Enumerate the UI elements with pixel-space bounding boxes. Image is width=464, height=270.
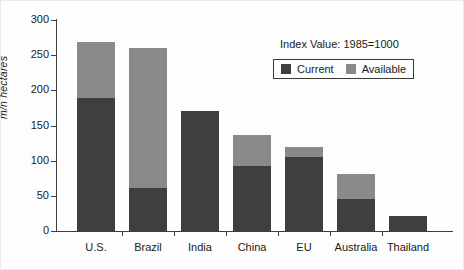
- bar-segment-current: [129, 188, 167, 231]
- y-axis-tick-label: 100: [15, 155, 49, 166]
- y-axis-tick-label: 300: [15, 14, 49, 25]
- bar-segment-available: [129, 48, 167, 188]
- bar-eu: [285, 147, 323, 231]
- bar-u-s: [77, 42, 115, 231]
- legend-title: Index Value: 1985=1000: [280, 38, 399, 50]
- y-axis-tick-label: 200: [15, 84, 49, 95]
- y-axis-tick-label: 0: [15, 225, 49, 236]
- legend: CurrentAvailable: [273, 59, 414, 79]
- y-axis-tick-label: 50: [15, 190, 49, 201]
- x-axis-tick: [330, 231, 331, 236]
- y-axis-tick-labels: 050100150200250300: [9, 1, 49, 270]
- plot-area: [57, 20, 452, 231]
- legend-swatch-icon: [346, 64, 356, 74]
- legend-entry-current: Current: [281, 63, 334, 75]
- y-axis-tick-label: 250: [15, 49, 49, 60]
- legend-swatch-icon: [281, 64, 291, 74]
- bar-segment-current: [181, 111, 219, 231]
- bar-australia: [337, 174, 375, 231]
- x-axis-tick: [382, 231, 383, 236]
- legend-label: Current: [297, 63, 334, 75]
- bar-segment-current: [233, 166, 271, 231]
- bar-brazil: [129, 48, 167, 231]
- x-axis-tick: [278, 231, 279, 236]
- bar-segment-available: [77, 42, 115, 98]
- x-axis-label: India: [174, 241, 226, 253]
- x-axis-label: EU: [278, 241, 330, 253]
- legend-label: Available: [362, 63, 406, 75]
- bar-segment-current: [77, 98, 115, 231]
- bar-segment-available: [233, 135, 271, 165]
- y-axis-tick-label: 150: [15, 120, 49, 131]
- x-axis-tick: [174, 231, 175, 236]
- bar-chart: m/n hectares 050100150200250300 U.S.Braz…: [0, 0, 464, 270]
- bar-thailand: [389, 216, 427, 231]
- x-axis-tick: [226, 231, 227, 236]
- x-axis-label: U.S.: [70, 241, 122, 253]
- bar-segment-available: [337, 174, 375, 199]
- x-axis-label: China: [226, 241, 278, 253]
- bar-india: [181, 111, 219, 231]
- y-axis-title: m/n hectares: [0, 56, 9, 119]
- bar-segment-current: [337, 199, 375, 231]
- x-axis-label: Thailand: [382, 241, 434, 253]
- bar-segment-current: [285, 157, 323, 231]
- bar-segment-available: [285, 147, 323, 157]
- bar-segment-current: [389, 216, 427, 231]
- bar-china: [233, 135, 271, 231]
- x-axis-label: Australia: [330, 241, 382, 253]
- legend-entry-available: Available: [346, 63, 406, 75]
- x-axis-label: Brazil: [122, 241, 174, 253]
- x-axis-line: [56, 231, 453, 232]
- x-axis-tick: [122, 231, 123, 236]
